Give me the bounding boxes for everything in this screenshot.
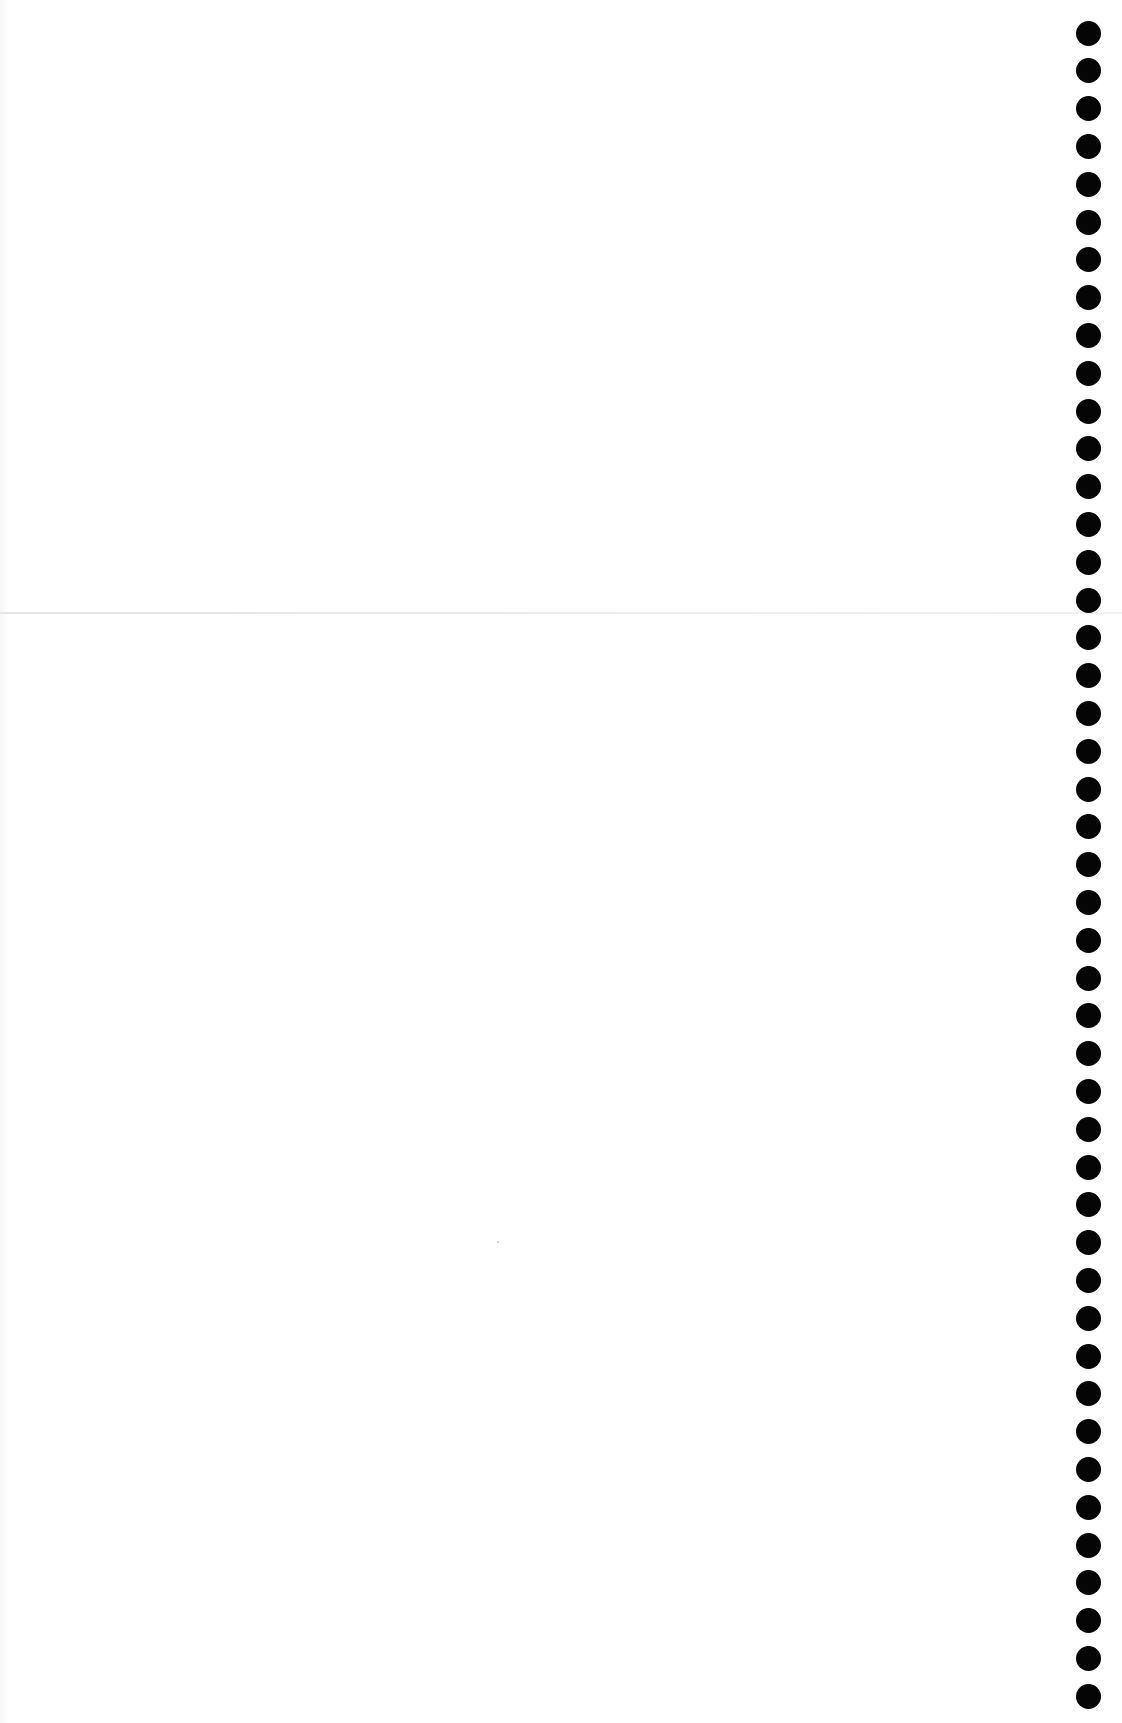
binding-hole-icon <box>1076 1570 1101 1595</box>
binding-hole-icon <box>1076 399 1101 424</box>
binding-hole-icon <box>1076 1684 1101 1709</box>
binding-hole-icon <box>1076 777 1101 802</box>
binding-hole-icon <box>1076 361 1101 386</box>
binding-hole-icon <box>1076 1419 1101 1444</box>
binding-hole-icon <box>1076 210 1101 235</box>
binding-hole-icon <box>1076 928 1101 953</box>
binding-hole-icon <box>1076 1381 1101 1406</box>
binding-hole-icon <box>1076 739 1101 764</box>
binding-hole-icon <box>1076 436 1101 461</box>
binding-hole-icon <box>1076 58 1101 83</box>
binding-hole-icon <box>1076 172 1101 197</box>
binding-hole-icon <box>1076 1230 1101 1255</box>
paper-speck <box>497 1241 499 1243</box>
binding-hole-icon <box>1076 247 1101 272</box>
binding-hole-icon <box>1076 1495 1101 1520</box>
binding-hole-icon <box>1076 1608 1101 1633</box>
binding-hole-icon <box>1076 1192 1101 1217</box>
binding-hole-icon <box>1076 1117 1101 1142</box>
binding-hole-icon <box>1076 1003 1101 1028</box>
binding-holes <box>1076 20 1102 1710</box>
binding-hole-icon <box>1076 1041 1101 1066</box>
binding-hole-icon <box>1076 134 1101 159</box>
binding-hole-icon <box>1076 663 1101 688</box>
binding-hole-icon <box>1076 285 1101 310</box>
binding-hole-icon <box>1076 814 1101 839</box>
binding-hole-icon <box>1076 1457 1101 1482</box>
binding-hole-icon <box>1076 550 1101 575</box>
binding-hole-icon <box>1076 852 1101 877</box>
binding-hole-icon <box>1076 1646 1101 1671</box>
binding-hole-icon <box>1076 1533 1101 1558</box>
top-bleed-text <box>140 0 940 6</box>
binding-hole-icon <box>1076 96 1101 121</box>
binding-hole-icon <box>1076 1155 1101 1180</box>
binding-hole-icon <box>1076 1079 1101 1104</box>
binding-hole-icon <box>1076 323 1101 348</box>
notebook-page <box>0 0 1122 1723</box>
binding-hole-icon <box>1076 625 1101 650</box>
binding-hole-icon <box>1076 1344 1101 1369</box>
binding-hole-icon <box>1076 474 1101 499</box>
binding-hole-icon <box>1076 588 1101 613</box>
binding-hole-icon <box>1076 1306 1101 1331</box>
binding-hole-icon <box>1076 966 1101 991</box>
page-fold-line <box>0 612 1122 614</box>
binding-hole-icon <box>1076 512 1101 537</box>
binding-hole-icon <box>1076 21 1101 46</box>
binding-hole-icon <box>1076 701 1101 726</box>
binding-hole-icon <box>1076 890 1101 915</box>
binding-hole-icon <box>1076 1268 1101 1293</box>
